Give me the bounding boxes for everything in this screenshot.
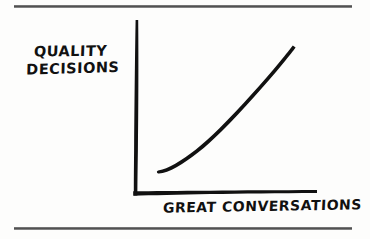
horizontal-axis <box>133 190 317 196</box>
sketch-figure: QUALITY DECISIONS GREAT CONVERSATIONS <box>0 0 370 239</box>
bottom-divider-rule <box>14 227 352 230</box>
growth-curve <box>157 46 296 174</box>
y-axis-label-line1: QUALITY <box>33 43 136 60</box>
y-axis-label: QUALITY DECISIONS <box>26 43 137 78</box>
y-axis-label-line2: DECISIONS <box>26 59 136 78</box>
